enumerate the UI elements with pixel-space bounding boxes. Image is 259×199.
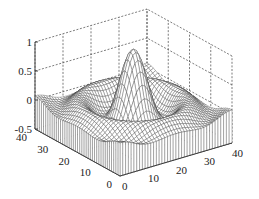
skirt-cell <box>131 143 134 173</box>
skirt-cell <box>103 142 105 168</box>
skirt-cell <box>179 132 182 158</box>
skirt-cell <box>159 139 162 164</box>
skirt-cell <box>56 117 58 142</box>
skirt-cell <box>37 97 39 131</box>
skirt-cell <box>145 144 148 169</box>
skirt-cell <box>128 142 131 173</box>
skirt-cell <box>48 109 50 138</box>
skirt-cell <box>86 132 88 158</box>
x-tick-label: 20 <box>176 164 188 176</box>
skirt-cell <box>63 120 65 145</box>
skirt-cell <box>101 141 103 167</box>
skirt-cell <box>71 124 73 151</box>
skirt-cell <box>54 115 56 141</box>
skirt-cell <box>198 128 201 153</box>
skirt-cell <box>78 127 80 154</box>
skirt-cell <box>134 143 137 172</box>
y-tick-label: 20 <box>59 155 71 167</box>
skirt-cell <box>46 106 48 136</box>
skirt-cell <box>170 135 173 162</box>
skirt-cell <box>221 114 224 146</box>
skirt-cell <box>95 138 97 163</box>
skirt-cell <box>88 134 90 160</box>
skirt-cell <box>154 141 157 166</box>
skirt-cell <box>118 142 120 176</box>
skirt-cell <box>210 123 213 150</box>
skirt-cell <box>196 129 199 154</box>
y-tick-label: 40 <box>16 131 28 143</box>
skirt-cell <box>39 99 41 133</box>
skirt-cell <box>126 142 129 174</box>
skirt-cell <box>73 125 75 152</box>
surface-plot: -0.500.51010203040010203040 <box>0 0 259 199</box>
skirt-cell <box>123 142 126 175</box>
skirt-cell <box>41 101 43 134</box>
skirt-cell <box>204 126 207 151</box>
skirt-cell <box>229 110 232 144</box>
skirt-cell <box>97 139 99 164</box>
skirt-cell <box>84 131 86 158</box>
skirt-cell <box>162 138 165 164</box>
skirt-cell <box>156 140 159 165</box>
skirt-cell <box>67 122 69 148</box>
skirt-cell <box>112 141 114 172</box>
x-tick-label: 30 <box>204 155 216 167</box>
skirt-cell <box>107 141 109 170</box>
skirt-cell <box>193 130 196 155</box>
skirt-cell <box>148 143 151 168</box>
z-tick-label: 0.5 <box>18 65 32 77</box>
skirt-cell <box>90 135 92 160</box>
skirt-cell <box>82 129 84 156</box>
skirt-cell <box>176 133 179 160</box>
skirt-cell <box>173 134 176 161</box>
skirt-cell <box>142 144 145 169</box>
skirt-cell <box>114 141 116 174</box>
skirt-cell <box>65 121 67 146</box>
x-tick-label: 10 <box>148 172 160 184</box>
x-tick-label: 40 <box>232 147 244 159</box>
skirt-cell <box>92 137 94 162</box>
skirt-cell <box>168 136 171 162</box>
skirt-cell <box>109 141 111 171</box>
skirt-cell <box>215 118 218 148</box>
skirt-cell <box>99 140 101 165</box>
skirt-cell <box>212 121 215 149</box>
skirt-cell <box>137 144 140 171</box>
skirt-cell <box>50 111 52 138</box>
y-tick-label: 30 <box>37 143 49 155</box>
skirt-cell <box>218 116 221 147</box>
skirt-cell <box>226 111 229 145</box>
skirt-cell <box>201 127 204 152</box>
y-tick-label: 0 <box>107 178 113 190</box>
skirt-cell <box>75 126 77 153</box>
skirt-cell <box>224 112 227 145</box>
skirt-cell <box>140 144 143 170</box>
skirt-cell <box>116 141 118 175</box>
x-tick-label: 0 <box>122 180 128 192</box>
skirt-cell <box>187 131 190 156</box>
skirt-cell <box>80 128 82 155</box>
z-tick-label: 1 <box>27 36 33 48</box>
y-tick-label: 10 <box>80 166 92 178</box>
z-tick-label: 0 <box>27 94 33 106</box>
skirt-cell <box>207 125 210 151</box>
skirt-cell <box>165 137 168 163</box>
skirt-cell <box>52 113 54 139</box>
skirt-cell <box>61 119 63 144</box>
skirt-cell <box>69 123 71 149</box>
skirt-cell <box>58 118 60 143</box>
skirt-cell <box>120 142 123 176</box>
skirt-cell <box>44 104 46 135</box>
skirt-cell <box>182 132 185 158</box>
skirt-cell <box>151 142 154 167</box>
skirt-cell <box>190 130 193 155</box>
skirt-cell <box>105 142 107 169</box>
skirt-cell <box>184 131 187 157</box>
surface-plot-figure: -0.500.51010203040010203040 <box>0 0 259 199</box>
